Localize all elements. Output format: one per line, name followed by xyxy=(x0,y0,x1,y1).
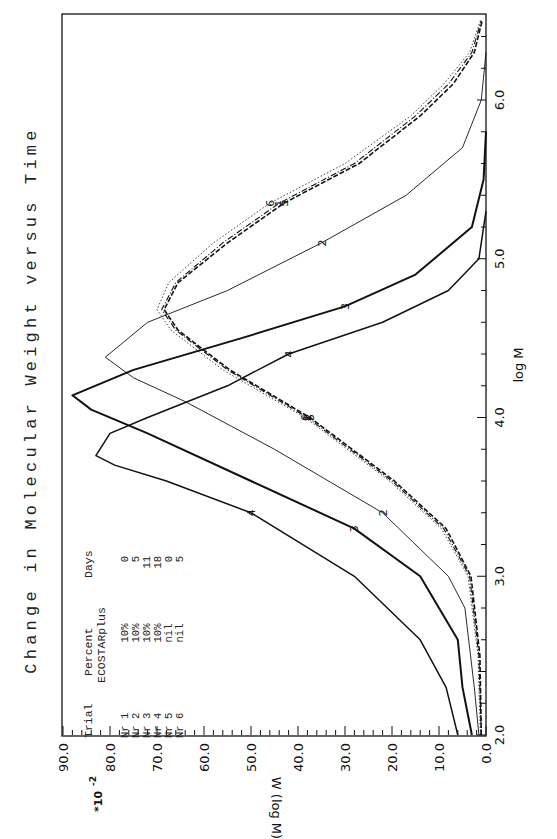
x-tick-label: 6.0 xyxy=(492,90,507,111)
series-marker-3: 3 xyxy=(348,525,361,532)
legend-row: Nr 310%11 xyxy=(141,556,153,738)
series-marker-4: 4 xyxy=(283,351,296,358)
series-marker-5: 5 xyxy=(278,200,291,207)
legend-header-days: Days xyxy=(82,550,95,578)
y-axis-label: W (log M) xyxy=(269,777,284,839)
legend-header-trial: Trial xyxy=(82,703,95,738)
series-line-3 xyxy=(72,132,486,735)
legend-percent: nil xyxy=(174,624,186,643)
legend-row: Nr 5nil0 xyxy=(163,556,175,738)
series-line-5 xyxy=(164,21,482,735)
legend: Trial Percent Days ECOSTARplus Nr 110%0N… xyxy=(82,550,186,738)
legend-row: Nr 210%5 xyxy=(130,556,142,738)
series-marker-4: 4 xyxy=(245,509,258,516)
series-marker-6: 6 xyxy=(264,200,277,207)
y-tick-label: 70.0 xyxy=(150,743,165,772)
y-tick-label: 80.0 xyxy=(103,743,118,772)
series-line-4 xyxy=(96,211,486,735)
y-multiplier: *10 -2 xyxy=(88,776,105,812)
y-tick-label: 10.0 xyxy=(432,743,447,772)
x-tick-label: 5.0 xyxy=(492,248,507,269)
series-marker-2: 2 xyxy=(377,509,390,516)
legend-row: Nr 110%0 xyxy=(119,556,131,738)
x-tick-label: 2.0 xyxy=(492,725,507,746)
chart-title: Change in Molecular Weight versus Time xyxy=(22,126,41,673)
y-tick-label: 60.0 xyxy=(197,743,212,772)
series-line-6 xyxy=(157,21,480,735)
series-marker-3: 3 xyxy=(339,303,352,310)
y-tick-label: 30.0 xyxy=(338,743,353,772)
legend-header-percent: Percent xyxy=(82,628,95,676)
series-marker-6: 6 xyxy=(299,414,312,421)
series-line-1 xyxy=(162,21,482,735)
legend-row: Nr 6nil5 xyxy=(174,556,186,738)
legend-subheader: ECOSTARplus xyxy=(95,607,108,683)
y-multiplier-label: *10 xyxy=(92,791,105,812)
x-tick-label: 4.0 xyxy=(492,407,507,428)
x-axis-label: log M xyxy=(511,347,526,382)
y-tick-label: 40.0 xyxy=(291,743,306,772)
y-tick-label: 50.0 xyxy=(244,743,259,772)
legend-trial: Nr 6 xyxy=(174,713,186,738)
y-tick-label: 90.0 xyxy=(56,743,71,772)
chart: Change in Molecular Weight versus Time 2… xyxy=(0,0,557,839)
y-tick-label: 0.0 xyxy=(479,743,494,764)
legend-days: 5 xyxy=(174,556,186,562)
y-tick-label: 20.0 xyxy=(385,743,400,772)
x-tick-label: 3.0 xyxy=(492,566,507,587)
y-multiplier-exp: -2 xyxy=(88,776,98,786)
legend-row: Nr 410%18 xyxy=(152,556,164,738)
x-axis: 2.03.04.05.06.0 xyxy=(477,37,507,746)
series-marker-2: 2 xyxy=(316,239,329,246)
